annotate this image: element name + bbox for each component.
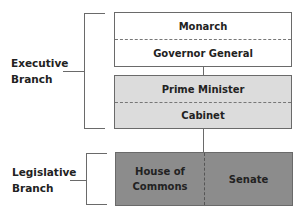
house-of-commons-cell: House of Commons [116, 153, 204, 205]
house-text-line2: Commons [133, 179, 188, 194]
connector-bottom [203, 129, 204, 152]
legislative-bracket-bottom-arm [86, 204, 107, 205]
monarch-governor-box: Monarch Governor General [114, 12, 292, 67]
monarch-cell: Monarch [115, 13, 291, 39]
legislative-label-line2: Branch [12, 180, 76, 196]
senate-text: Senate [229, 172, 268, 187]
executive-bracket-bottom-arm [84, 128, 105, 129]
parliament-box: House of Commons Senate [115, 152, 293, 206]
legislative-label-line1: Legislative [12, 164, 76, 180]
senate-cell: Senate [205, 153, 292, 205]
cabinet-text: Cabinet [181, 108, 224, 123]
executive-label-line2: Branch [11, 71, 68, 87]
executive-label-line1: Executive [11, 55, 68, 71]
executive-branch-label: Executive Branch [11, 55, 68, 87]
connector-top [203, 67, 204, 75]
prime-minister-text: Prime Minister [162, 82, 245, 97]
executive-bracket-top-arm [84, 13, 105, 14]
legislative-bracket-top-arm [86, 153, 107, 154]
pm-cabinet-box: Prime Minister Cabinet [114, 75, 292, 129]
house-text-line1: House of [133, 164, 188, 179]
legislative-branch-label: Legislative Branch [12, 164, 76, 196]
governor-general-cell: Governor General [115, 40, 291, 66]
monarch-text: Monarch [179, 19, 228, 34]
executive-bracket-vertical [84, 13, 85, 129]
legislative-bracket-vertical [86, 153, 87, 205]
cabinet-cell: Cabinet [115, 103, 291, 128]
governor-general-text: Governor General [153, 46, 253, 61]
prime-minister-cell: Prime Minister [115, 76, 291, 102]
